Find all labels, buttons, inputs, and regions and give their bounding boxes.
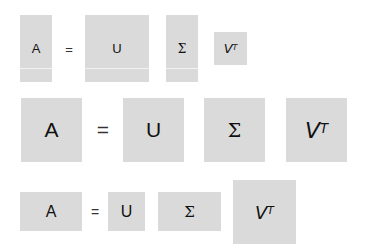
matrix-u-label: U bbox=[121, 203, 133, 221]
matrix-v-transpose: VT bbox=[286, 98, 347, 162]
matrix-a-label: A bbox=[46, 203, 57, 221]
matrix-v-label: V bbox=[305, 118, 320, 143]
matrix-a: A bbox=[20, 15, 52, 82]
matrix-sigma: Σ bbox=[166, 15, 198, 82]
matrix-u: U bbox=[123, 98, 184, 162]
matrix-sigma-label: Σ bbox=[178, 42, 186, 56]
equals-label: = bbox=[97, 118, 109, 142]
equals-label: = bbox=[65, 42, 73, 57]
matrix-u: U bbox=[108, 192, 145, 231]
matrix-sigma: Σ bbox=[158, 192, 221, 231]
equals-sign: = bbox=[58, 40, 80, 58]
divider bbox=[20, 68, 52, 69]
matrix-u: U bbox=[85, 15, 149, 82]
transpose-superscript: T bbox=[267, 204, 274, 217]
matrix-v-transpose: VT bbox=[214, 32, 247, 65]
matrix-v-label: V bbox=[255, 202, 267, 223]
transpose-superscript: T bbox=[320, 121, 328, 136]
matrix-sigma-label: Σ bbox=[228, 119, 241, 141]
equals-label: = bbox=[91, 204, 99, 220]
matrix-u-label: U bbox=[146, 118, 161, 142]
transpose-superscript: T bbox=[233, 43, 238, 52]
equals-sign: = bbox=[90, 118, 116, 142]
divider bbox=[85, 68, 149, 69]
matrix-sigma: Σ bbox=[204, 98, 265, 162]
matrix-a-label: A bbox=[44, 118, 58, 142]
matrix-u-label: U bbox=[112, 41, 121, 56]
matrix-v-label: V bbox=[224, 41, 233, 56]
matrix-v-transpose: VT bbox=[233, 180, 296, 244]
matrix-a: A bbox=[20, 192, 82, 231]
matrix-a-label: A bbox=[32, 41, 41, 56]
divider bbox=[166, 68, 198, 69]
equals-sign: = bbox=[86, 202, 104, 222]
matrix-a: A bbox=[21, 98, 82, 162]
matrix-sigma-label: Σ bbox=[184, 203, 195, 221]
